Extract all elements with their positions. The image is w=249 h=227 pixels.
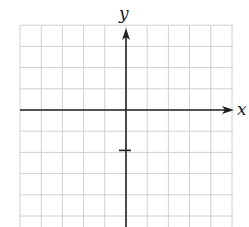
x-axis-label: x (237, 99, 247, 119)
coordinate-plane: x y (0, 0, 249, 227)
y-axis-label: y (118, 3, 129, 23)
axes (20, 28, 234, 227)
